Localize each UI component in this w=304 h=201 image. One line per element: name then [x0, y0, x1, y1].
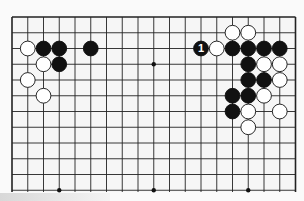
go-board[interactable]: 1 [0, 0, 304, 201]
white-stone[interactable] [272, 57, 287, 72]
white-stone[interactable] [20, 41, 35, 56]
white-stone[interactable] [241, 120, 256, 135]
white-stone[interactable] [272, 73, 287, 88]
white-stone[interactable] [272, 104, 287, 119]
black-stone[interactable] [241, 73, 256, 88]
white-stone[interactable] [36, 57, 51, 72]
star-point [246, 188, 250, 192]
white-stone[interactable] [36, 88, 51, 103]
black-stone[interactable] [272, 41, 287, 56]
page-edge-shadow [0, 193, 110, 201]
white-stone[interactable] [209, 41, 224, 56]
black-stone[interactable]: 1 [194, 41, 209, 56]
black-stone[interactable] [257, 41, 272, 56]
white-stone[interactable] [241, 104, 256, 119]
black-stone[interactable] [52, 57, 67, 72]
black-stone[interactable] [257, 73, 272, 88]
black-stone[interactable] [83, 41, 98, 56]
black-stone[interactable] [36, 41, 51, 56]
black-stone[interactable] [225, 104, 240, 119]
white-stone[interactable] [241, 25, 256, 40]
move-number-label: 1 [198, 42, 204, 54]
white-stone[interactable] [257, 57, 272, 72]
black-stone[interactable] [52, 41, 67, 56]
star-point [152, 188, 156, 192]
white-stone[interactable] [225, 25, 240, 40]
black-stone[interactable] [225, 88, 240, 103]
white-stone[interactable] [257, 88, 272, 103]
black-stone[interactable] [225, 41, 240, 56]
white-stone[interactable] [20, 73, 35, 88]
black-stone[interactable] [241, 57, 256, 72]
black-stone[interactable] [241, 88, 256, 103]
star-point [152, 62, 156, 66]
black-stone[interactable] [241, 41, 256, 56]
star-point [57, 188, 61, 192]
